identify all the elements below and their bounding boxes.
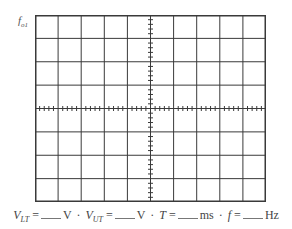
period-blank[interactable] — [178, 208, 198, 219]
oscilloscope-grid — [35, 15, 266, 202]
formula-vut: VUT =V · — [85, 208, 159, 222]
vlt-blank[interactable] — [41, 208, 61, 219]
output-label: fo1 — [18, 14, 28, 29]
answer-formula: VLT =V · VUT =V · T =ms · f =Hz — [0, 208, 292, 224]
frequency-blank[interactable] — [243, 208, 263, 219]
formula-period: T =ms · — [159, 208, 227, 222]
vut-blank[interactable] — [115, 208, 135, 219]
output-label-subscript: o1 — [21, 21, 28, 29]
formula-frequency: f =Hz — [228, 208, 279, 222]
grid-graphic — [35, 15, 266, 202]
formula-vlt: VLT =V · — [13, 208, 85, 222]
